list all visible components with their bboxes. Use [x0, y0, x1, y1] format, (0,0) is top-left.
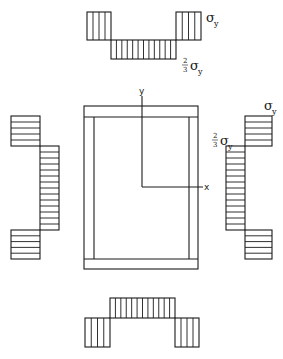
- svg-text:y: y: [213, 19, 219, 28]
- right-middle-compression-block: [226, 146, 245, 230]
- stress-labels: σy23σyσy23σy: [182, 10, 277, 151]
- right-top-tension-block: [245, 116, 272, 146]
- left-bottom-tension-block: [11, 230, 40, 259]
- svg-text:3: 3: [183, 66, 187, 74]
- bottom-middle-compression-block: [110, 298, 175, 318]
- x-axis-label: x: [204, 182, 210, 192]
- svg-text:y: y: [271, 107, 277, 116]
- top-two-thirds-sigma-y-label: 23σy: [182, 57, 203, 76]
- svg-text:y: y: [197, 67, 203, 76]
- svg-text:2: 2: [213, 132, 217, 140]
- top-left-tension-block: [87, 12, 111, 40]
- svg-text:3: 3: [213, 141, 217, 149]
- bottom-right-tension-block: [175, 318, 199, 347]
- left-middle-compression-block: [40, 146, 59, 230]
- y-axis-label: y: [139, 86, 145, 96]
- top-right-tension-block: [176, 12, 201, 40]
- right-sigma-y-label: σy: [264, 98, 277, 116]
- right-two-thirds-sigma-y-label: 23σy: [212, 132, 233, 151]
- svg-text:y: y: [227, 142, 233, 151]
- top-sigma-y-label: σy: [206, 10, 219, 28]
- top-middle-compression-block: [111, 40, 176, 59]
- bottom-left-tension-block: [85, 318, 110, 347]
- left-top-tension-block: [11, 116, 40, 146]
- right-bottom-tension-block: [245, 230, 272, 259]
- svg-text:2: 2: [183, 57, 187, 65]
- stress-diagram: yx σy23σyσy23σy: [0, 0, 283, 359]
- coordinate-axes: yx: [139, 86, 210, 192]
